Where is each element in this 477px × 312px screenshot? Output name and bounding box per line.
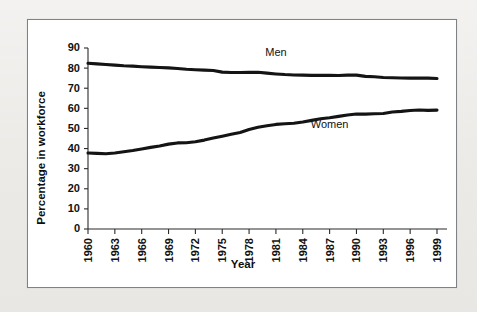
x-axis-tick-label: 1993 [377, 238, 389, 262]
x-axis-tick-label: 1990 [350, 238, 362, 262]
x-axis-tick-label: 1960 [82, 238, 94, 262]
data-series-line-men [88, 63, 437, 78]
x-axis-tick-label: 1999 [431, 238, 443, 262]
y-axis-tick-label: 30 [68, 162, 80, 174]
x-axis-tick-label: 1975 [216, 238, 228, 262]
y-axis: 0102030405060708090 [68, 41, 88, 234]
y-axis-tick-label: 80 [68, 62, 80, 74]
series-label-group: MenWomen [265, 46, 348, 130]
x-axis-title: Year [231, 258, 256, 270]
y-axis-tick-label: 0 [74, 222, 80, 234]
figure-panel: 0102030405060708090 19601963196619691972… [27, 19, 457, 288]
y-axis-tick-label: 60 [68, 102, 80, 114]
y-axis-tick-label: 10 [68, 202, 80, 214]
y-axis-title: Percentage in workforce [35, 91, 47, 225]
y-axis-tick-label: 50 [68, 122, 80, 134]
page-background: 0102030405060708090 19601963196619691972… [0, 0, 477, 312]
x-axis-tick-label: 1984 [297, 237, 309, 262]
x-axis-tick-label: 1966 [136, 238, 148, 262]
y-axis-tick-label: 70 [68, 82, 80, 94]
y-axis-tick-label: 90 [68, 41, 80, 53]
data-series-group [88, 63, 437, 154]
x-axis-tick-label: 1963 [109, 238, 121, 262]
chart-plot-area: 0102030405060708090 19601963196619691972… [28, 20, 458, 289]
data-series-line-women [88, 110, 437, 154]
x-axis-tick-label: 1969 [163, 238, 175, 262]
x-axis-tick-label: 1981 [270, 238, 282, 262]
y-axis-tick-label: 20 [68, 182, 80, 194]
series-label-men: Men [265, 46, 286, 58]
x-axis-tick-label: 1987 [324, 238, 336, 262]
series-label-women: Women [311, 118, 349, 130]
line-chart: 0102030405060708090 19601963196619691972… [28, 20, 458, 289]
x-axis: 1960196319661969197219751978198119841987… [82, 229, 447, 262]
x-axis-tick-label: 1972 [189, 238, 201, 262]
y-axis-tick-label: 40 [68, 142, 80, 154]
x-axis-tick-label: 1996 [404, 238, 416, 262]
